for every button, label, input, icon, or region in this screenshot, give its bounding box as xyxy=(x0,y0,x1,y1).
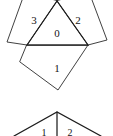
square-face-1: 1 xyxy=(20,45,88,90)
top-figure-group: 3 2 1 0 xyxy=(7,0,107,90)
square-face-2-label: 2 xyxy=(75,14,81,26)
square-face-1-label: 1 xyxy=(54,62,60,74)
bottom-figure-label-2: 2 xyxy=(68,127,73,136)
triangle-face-0-label: 0 xyxy=(54,27,60,39)
square-face-2-outline xyxy=(57,0,107,45)
square-face-3-label: 3 xyxy=(31,14,37,26)
square-face-2: 2 xyxy=(57,0,107,45)
bottom-figure-label-1: 1 xyxy=(42,127,47,136)
bottom-figure-group: 1 2 xyxy=(14,112,101,136)
geometry-figure-canvas: 3 2 1 0 1 2 xyxy=(0,0,113,136)
